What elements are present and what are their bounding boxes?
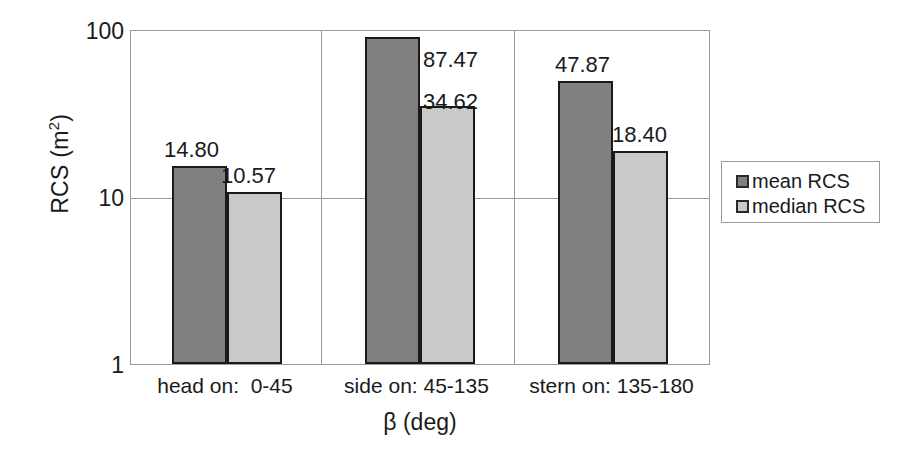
bar-label-median-side-on: 34.62 xyxy=(423,91,478,113)
plot-area: 14.80 10.57 87.47 34.62 47.87 18.40 xyxy=(130,30,710,365)
y-tick-label-10: 10 xyxy=(62,187,124,210)
bar-median-side-on xyxy=(420,106,475,364)
y-tick-label-100: 100 xyxy=(62,20,124,43)
bar-median-head-on xyxy=(227,192,282,364)
bar-mean-head-on xyxy=(172,166,227,364)
legend-swatch-mean-icon xyxy=(736,175,749,188)
category-divider-1 xyxy=(321,31,322,364)
x-category-label-stern-on: stern on: 135-180 xyxy=(513,374,710,398)
x-category-label-head-on: head on: 0-45 xyxy=(130,374,320,398)
x-axis-title: β (deg) xyxy=(130,409,710,436)
rcs-bar-chart-figure: RCS (m2) 100 10 1 14.80 10.57 87.47 34.6… xyxy=(0,0,918,451)
bar-label-median-head-on: 10.57 xyxy=(221,165,276,187)
legend-swatch-median-icon xyxy=(736,200,749,213)
bar-mean-stern-on xyxy=(558,81,613,364)
legend-item-mean-rcs: mean RCS xyxy=(736,169,879,193)
legend-label-median-rcs: median RCS xyxy=(752,196,865,216)
legend-item-median-rcs: median RCS xyxy=(736,194,879,218)
bar-label-mean-side-on: 87.47 xyxy=(423,49,478,71)
x-category-label-side-on: side on: 45-135 xyxy=(320,374,513,398)
bar-label-mean-stern-on: 47.87 xyxy=(555,54,610,76)
bar-median-stern-on xyxy=(613,151,668,364)
legend-label-mean-rcs: mean RCS xyxy=(752,171,850,191)
y-axis-tick-labels: 100 10 1 xyxy=(56,0,124,451)
category-divider-2 xyxy=(514,31,515,364)
legend: mean RCS median RCS xyxy=(721,161,880,223)
bar-label-mean-head-on: 14.80 xyxy=(164,139,219,161)
bar-mean-side-on xyxy=(365,37,420,364)
y-tick-label-1: 1 xyxy=(62,354,124,377)
bar-label-median-stern-on: 18.40 xyxy=(612,124,667,146)
